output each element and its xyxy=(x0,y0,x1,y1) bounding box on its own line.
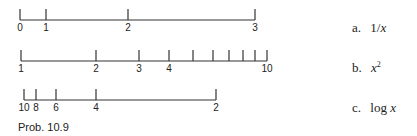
scale-c-label: c. log x xyxy=(352,100,396,115)
tick-label: 10 xyxy=(261,63,273,74)
scale-a-label: a. 1/x xyxy=(352,20,386,35)
tick-label: 8 xyxy=(33,102,39,113)
tick-label: 0 xyxy=(17,22,23,33)
scales-figure: 0123123410108642 a. 1/x b. x2 c. log x P… xyxy=(0,0,417,136)
tick-label: 6 xyxy=(53,102,59,113)
scale-b-label: b. x2 xyxy=(352,60,381,75)
tick-label: 2 xyxy=(125,22,131,33)
tick-label: 4 xyxy=(93,102,99,113)
tick-label: 2 xyxy=(93,63,99,74)
scale-b: 123410 xyxy=(18,50,273,74)
tick-label: 3 xyxy=(252,22,258,33)
scale-a: 0123 xyxy=(17,9,258,33)
tick-label: 10 xyxy=(18,102,30,113)
scale-c: 108642 xyxy=(18,89,219,113)
tick-label: 3 xyxy=(136,63,142,74)
tick-label: 1 xyxy=(18,63,24,74)
tick-label: 2 xyxy=(213,102,219,113)
scales-layer: 0123123410108642 xyxy=(17,9,273,113)
tick-label: 1 xyxy=(43,22,49,33)
figure-caption: Prob. 10.9 xyxy=(18,121,69,133)
tick-label: 4 xyxy=(166,63,172,74)
